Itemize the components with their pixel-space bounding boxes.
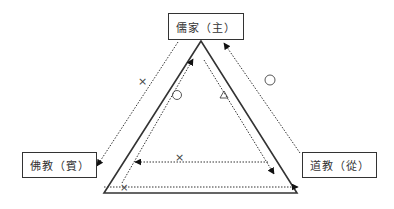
node-confucianism-label: 儒家（主） [176, 19, 236, 35]
node-buddhism: 佛教（賓） [22, 152, 97, 178]
circle-symbol-right-outer [265, 75, 275, 85]
solid-triangle [104, 41, 297, 193]
dotted-arrow-inner-left-up [122, 59, 193, 183]
diagram-canvas: × × × 儒家（主） 佛教（賓） 道教（從） [0, 0, 394, 209]
dotted-arrow-top-to-left [97, 42, 178, 166]
cross-symbol-bottom-inner: × [175, 151, 184, 164]
circle-symbol-left-inner [173, 91, 182, 100]
node-confucianism: 儒家（主） [168, 13, 244, 40]
node-buddhism-label: 佛教（賓） [30, 157, 90, 173]
dotted-arrow-inner-right-down [204, 60, 274, 174]
node-taoism-label: 道教（從） [310, 157, 370, 173]
cross-symbol-left-outer: × [138, 75, 147, 88]
cross-symbol-bottom-corner: × [120, 182, 128, 193]
node-taoism: 道教（從） [302, 152, 377, 178]
